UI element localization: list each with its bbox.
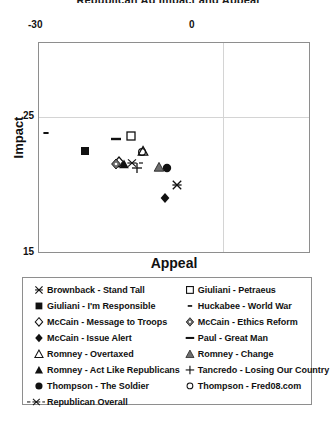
open-diamond-icon xyxy=(31,315,47,329)
gridline-horizontal xyxy=(39,117,309,118)
x-axis-title: Appeal xyxy=(38,255,310,271)
open-circle-icon xyxy=(182,379,198,393)
open-triangle-icon xyxy=(31,347,47,361)
x-axis-tick-max: 0 xyxy=(189,19,195,30)
plot-area xyxy=(38,42,310,253)
data-point-marker xyxy=(109,157,123,171)
filled-triangle-icon xyxy=(31,363,47,377)
legend-item: Romney - Change xyxy=(182,346,312,362)
legend-column-right: Giuliani - PetraeusHuckabee - World WarM… xyxy=(180,282,312,394)
legend-item: Thompson - Fred08.com xyxy=(182,378,312,394)
legend-item-label: Tancredo - Losing Our Country xyxy=(198,365,329,375)
legend: Brownback - Stand TallGiuliani - I'm Res… xyxy=(22,277,312,405)
legend-item: Brownback - Stand Tall xyxy=(31,282,180,298)
x-axis-tick-min: -30 xyxy=(28,19,42,30)
legend-item: Tancredo - Losing Our Country xyxy=(182,362,312,378)
legend-item-label: Romney - Overtaxed xyxy=(47,349,134,359)
legend-item-label: Giuliani - Petraeus xyxy=(198,285,276,295)
data-point-marker xyxy=(170,178,184,192)
data-point-marker xyxy=(130,161,144,175)
legend-column-left: Brownback - Stand TallGiuliani - I'm Res… xyxy=(23,282,180,394)
chart-title: Republican Ad Impact and Appeal xyxy=(0,0,336,3)
data-point-marker xyxy=(135,145,149,159)
gridline-vertical xyxy=(223,43,224,252)
grey-triangle-icon xyxy=(182,347,198,361)
legend-item-label: Thompson - The Soldier xyxy=(47,381,149,391)
legend-item-label: Thompson - Fred08.com xyxy=(198,381,301,391)
plus-icon xyxy=(182,363,198,377)
legend-item: Giuliani - I'm Responsible xyxy=(31,298,180,314)
dash-x-dash-icon xyxy=(25,395,47,409)
data-point-marker xyxy=(78,144,92,158)
y-axis-title: Impact xyxy=(11,108,26,168)
legend-item: Romney - Act Like Republicans xyxy=(31,362,180,378)
filled-circle-icon xyxy=(31,379,47,393)
legend-item: Thompson - The Soldier xyxy=(31,378,180,394)
legend-item-label: McCain - Ethics Reform xyxy=(198,317,298,327)
legend-item-label: Romney - Change xyxy=(198,349,274,359)
open-square-icon xyxy=(182,283,198,297)
legend-item: McCain - Ethics Reform xyxy=(182,314,312,330)
small-dash-icon xyxy=(182,299,198,313)
legend-item-label: McCain - Message to Troops xyxy=(47,317,167,327)
legend-item-label: Republican Overall xyxy=(47,397,128,407)
diamond-dot-icon xyxy=(182,315,198,329)
data-point-marker xyxy=(124,129,138,143)
legend-item: Romney - Overtaxed xyxy=(31,346,180,362)
filled-diamond-icon xyxy=(31,331,47,345)
legend-item-label: Paul - Great Man xyxy=(198,333,268,343)
legend-item-label: Huckabee - World War xyxy=(198,301,292,311)
filled-square-icon xyxy=(31,299,47,313)
legend-item-label: Giuliani - I'm Responsible xyxy=(47,301,155,311)
y-axis-tick-15: 15 xyxy=(14,246,34,257)
legend-item: McCain - Issue Alert xyxy=(31,330,180,346)
legend-item: Huckabee - World War xyxy=(182,298,312,314)
legend-item-label: Brownback - Stand Tall xyxy=(47,285,145,295)
data-point-marker xyxy=(109,132,123,146)
data-point-marker xyxy=(152,160,166,174)
legend-item-label: Romney - Act Like Republicans xyxy=(47,365,180,375)
legend-item-republican-overall: Republican Overall xyxy=(23,394,311,410)
data-point-marker xyxy=(158,191,172,205)
legend-item: Giuliani - Petraeus xyxy=(182,282,312,298)
x-thin-icon xyxy=(31,283,47,297)
thick-dash-icon xyxy=(182,331,198,345)
legend-item: McCain - Message to Troops xyxy=(31,314,180,330)
data-point-marker xyxy=(39,126,53,140)
legend-item-label: McCain - Issue Alert xyxy=(47,333,132,343)
legend-item: Paul - Great Man xyxy=(182,330,312,346)
